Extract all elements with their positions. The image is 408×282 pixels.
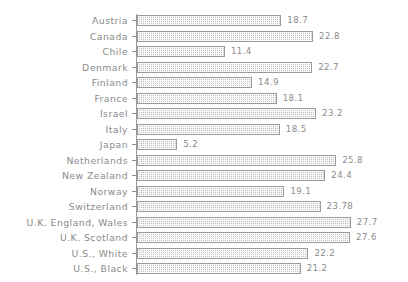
bar-row: U.S., White22.2 <box>0 246 408 262</box>
bar-value-label: 22.7 <box>318 60 339 76</box>
bar-row: New Zealand24.4 <box>0 168 408 184</box>
bar <box>137 93 277 104</box>
bar-value-label: 21.2 <box>307 261 328 277</box>
bar <box>137 170 325 181</box>
bar-value-label: 23.2 <box>322 106 343 122</box>
bar-value-label: 19.1 <box>290 184 311 200</box>
category-label: Italy <box>0 122 128 138</box>
bar-row: Italy18.5 <box>0 122 408 138</box>
bar <box>137 139 177 150</box>
bar-value-label: 14.9 <box>258 75 279 91</box>
category-label: New Zealand <box>0 168 128 184</box>
bar-row: Norway19.1 <box>0 184 408 200</box>
bar <box>137 232 350 243</box>
bar <box>137 201 321 212</box>
bar-value-label: 5.2 <box>183 137 198 153</box>
bar-row: France18.1 <box>0 91 408 107</box>
bar <box>137 108 316 119</box>
bar <box>137 77 252 88</box>
category-label: U.S., White <box>0 246 128 262</box>
category-label: Netherlands <box>0 153 128 169</box>
category-label: Chile <box>0 44 128 60</box>
bar-value-label: 11.4 <box>231 44 252 60</box>
category-label: Canada <box>0 29 128 45</box>
category-label: France <box>0 91 128 107</box>
bar-value-label: 24.4 <box>331 168 352 184</box>
bar-row: U.S., Black21.2 <box>0 261 408 277</box>
bar <box>137 186 284 197</box>
category-label: Switzerland <box>0 199 128 215</box>
bar-row: Chile11.4 <box>0 44 408 60</box>
bar-value-label: 18.7 <box>287 13 308 29</box>
bar <box>137 124 280 135</box>
bar-value-label: 23.78 <box>327 199 354 215</box>
bar <box>137 46 225 57</box>
category-label: Israel <box>0 106 128 122</box>
bar <box>137 31 313 42</box>
bar-row: U.K. Scotland27.6 <box>0 230 408 246</box>
bar-value-label: 22.2 <box>314 246 335 262</box>
category-label: Denmark <box>0 60 128 76</box>
category-label: U.S., Black <box>0 261 128 277</box>
bar-value-label: 25.8 <box>342 153 363 169</box>
category-label: Japan <box>0 137 128 153</box>
bar-row: Japan5.2 <box>0 137 408 153</box>
bar <box>137 15 281 26</box>
bar-value-label: 18.5 <box>286 122 307 138</box>
bar <box>137 217 351 228</box>
bar <box>137 155 336 166</box>
bar-row: Netherlands25.8 <box>0 153 408 169</box>
bar <box>137 62 312 73</box>
category-label: U.K. Scotland <box>0 230 128 246</box>
bar-value-label: 18.1 <box>283 91 304 107</box>
bar-row: Finland14.9 <box>0 75 408 91</box>
bar-chart: Austria18.7Canada22.8Chile11.4Denmark22.… <box>0 0 408 282</box>
bar-value-label: 22.8 <box>319 29 340 45</box>
bar <box>137 263 301 274</box>
bar-row: Denmark22.7 <box>0 60 408 76</box>
category-label: Norway <box>0 184 128 200</box>
bar-value-label: 27.6 <box>356 230 377 246</box>
bar-row: U.K. England, Wales27.7 <box>0 215 408 231</box>
bar-value-label: 27.7 <box>357 215 378 231</box>
bar-row: Austria18.7 <box>0 13 408 29</box>
category-label: U.K. England, Wales <box>0 215 128 231</box>
bar-row: Canada22.8 <box>0 29 408 45</box>
bar-row: Israel23.2 <box>0 106 408 122</box>
bar-row: Switzerland23.78 <box>0 199 408 215</box>
category-label: Finland <box>0 75 128 91</box>
bar <box>137 248 308 259</box>
category-label: Austria <box>0 13 128 29</box>
